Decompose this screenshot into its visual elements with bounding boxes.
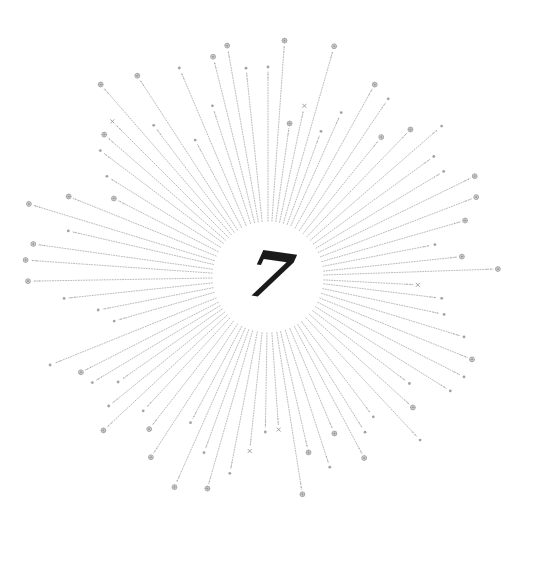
ray-line [33,278,212,281]
ray-line [303,141,378,234]
sparkle-star-icon [211,54,216,59]
ray-dot [177,480,178,481]
ray-line [108,138,226,240]
ray-dot [113,401,114,402]
sparkle-star-icon [408,127,413,132]
sparkle-dot-icon [49,364,52,367]
ray-dot [209,481,210,482]
ray-dot [214,112,215,113]
ray-dot [330,56,331,57]
ray-dot [123,377,124,378]
sparkle-dot-icon [440,125,443,128]
ray-dot [338,118,339,119]
ray-line [69,283,212,298]
ray-dot [464,180,465,181]
ray-dot [454,257,455,258]
ray-line [209,331,253,484]
ray-dot [181,74,182,75]
ray-line [324,269,493,275]
ray-dot [469,199,470,200]
sparkle-cross-icon [302,104,306,108]
ray-line [298,325,363,429]
sparkle-dot-icon [442,170,445,173]
ray-dot [108,157,109,158]
ray-dot [360,451,361,452]
ray-line [324,257,457,271]
sparkle-star-icon [306,450,311,455]
sparkle-star-icon [372,82,377,87]
sparkle-cross-icon [248,449,252,453]
ray-dot [116,181,117,182]
ray-dot [283,47,284,48]
sparkle-dot-icon [67,230,70,233]
sparkle-star-icon [225,43,230,48]
sparkle-star-icon [282,38,287,43]
sparkle-star-icon [25,279,30,284]
sparkle-dot-icon [107,405,110,408]
sparkle-dot-icon [228,472,231,475]
ray-dot [126,375,127,376]
ray-line [250,333,262,446]
ray-dot [465,200,466,201]
ray-dot [250,439,251,440]
ray-dot [358,448,359,449]
ray-dot [428,160,429,161]
ray-dot [454,223,455,224]
ray-line [116,125,228,237]
ray-dot [415,434,416,435]
ray-line [295,89,372,228]
ray-dot [329,423,330,424]
ray-dot [32,260,33,261]
ray-dot [105,89,106,90]
ray-dot [228,52,229,53]
ray-dot [288,130,289,131]
ray-dot [119,201,120,202]
ray-dot [156,447,157,448]
ray-line [206,330,249,448]
sparkle-star-icon [332,44,337,49]
sparkle-star-icon [472,174,477,179]
ray-dot [36,260,37,261]
ray-dot [287,134,288,135]
sparkle-dot-icon [91,381,94,384]
sparkle-star-icon [26,201,31,206]
ray-dot [206,445,207,446]
sparkle-dot-icon [203,451,206,454]
ray-line [307,133,407,237]
ray-dot [406,284,407,285]
ray-dot [301,116,302,117]
sparkle-star-icon [147,427,152,432]
sparkle-star-icon [23,257,28,262]
ray-line [287,136,319,224]
ray-dot [108,307,109,308]
ray-dot [160,133,161,134]
ray-line [324,280,413,285]
ray-dot [405,134,406,135]
ray-dot [461,355,462,356]
sparkle-dot-icon [264,431,267,434]
ray-dot [440,384,441,385]
ray-dot [112,179,113,180]
ray-dot [183,78,184,79]
sparkle-dot-icon [267,66,270,69]
ray-dot [231,466,232,467]
ray-dot [195,412,196,413]
ray-dot [368,411,369,412]
ray-line [291,117,339,226]
ray-dot [283,51,284,52]
ray-dot [305,441,306,442]
sparkle-star-icon [474,195,479,200]
sparkle-dot-icon [211,104,214,107]
ray-dot [155,420,156,421]
ray-line [323,289,439,314]
ray-dot [424,162,425,163]
ray-line [320,199,471,257]
ray-dot [278,422,279,423]
ray-dot [38,280,39,281]
ray-dot [434,176,435,177]
ray-line [104,88,231,234]
ray-line [320,298,467,358]
ray-dot [381,107,382,108]
sparkle-dot-icon [328,466,331,469]
ray-line [313,159,430,244]
